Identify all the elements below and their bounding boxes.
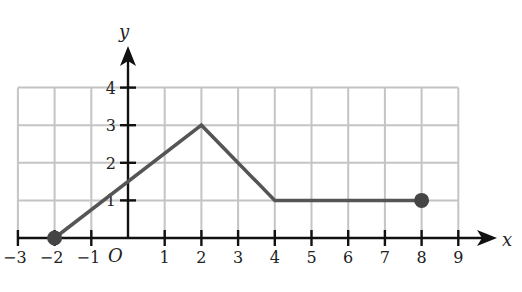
x-tick-label: −1 xyxy=(77,248,101,267)
x-tick-label: 3 xyxy=(233,248,243,267)
endpoint-marker xyxy=(415,194,428,207)
x-tick-label: −2 xyxy=(40,248,64,267)
x-tick-label: 5 xyxy=(306,248,316,267)
x-tick-label: 6 xyxy=(343,248,353,267)
x-tick-label: −3 xyxy=(3,248,27,267)
y-axis-label: y xyxy=(118,21,130,42)
x-tick-label: 9 xyxy=(453,248,463,267)
x-tick-label: 4 xyxy=(270,248,280,267)
x-axis-label: x xyxy=(502,229,512,250)
y-tick-label: 2 xyxy=(106,154,116,173)
endpoint-marker xyxy=(48,232,61,245)
y-tick-label: 3 xyxy=(106,116,116,135)
coordinate-plane: −3−2−11234567891234 x y O xyxy=(0,0,522,292)
y-tick-label: 4 xyxy=(106,79,116,98)
x-tick-label: 8 xyxy=(417,248,427,267)
x-tick-label: 2 xyxy=(196,248,206,267)
origin-label: O xyxy=(108,245,123,266)
x-tick-label: 7 xyxy=(380,248,390,267)
axes xyxy=(18,46,497,246)
x-tick-label: 1 xyxy=(160,248,170,267)
